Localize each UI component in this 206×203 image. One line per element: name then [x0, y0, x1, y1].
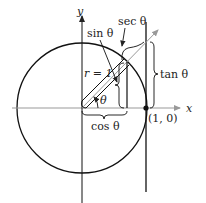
point-label: (1, 0) — [148, 112, 178, 125]
sec-label: sec θ — [118, 15, 147, 28]
sec-brace — [122, 42, 144, 60]
radius-label: r = 1 — [84, 67, 112, 80]
angle-label: θ — [100, 94, 107, 107]
cos-brace — [82, 111, 127, 119]
x-axis-label: x — [186, 102, 193, 115]
y-axis-label: y — [76, 5, 84, 18]
tan-brace — [150, 42, 158, 108]
unit-circle-diagram: y x sin θ sec θ tan θ cos θ r = 1 θ (1, … — [0, 0, 206, 203]
tan-label: tan θ — [160, 68, 189, 81]
cos-label: cos θ — [91, 120, 120, 133]
point-1-0 — [143, 105, 148, 110]
sin-label: sin θ — [87, 27, 114, 40]
sec-pointer — [122, 28, 125, 46]
